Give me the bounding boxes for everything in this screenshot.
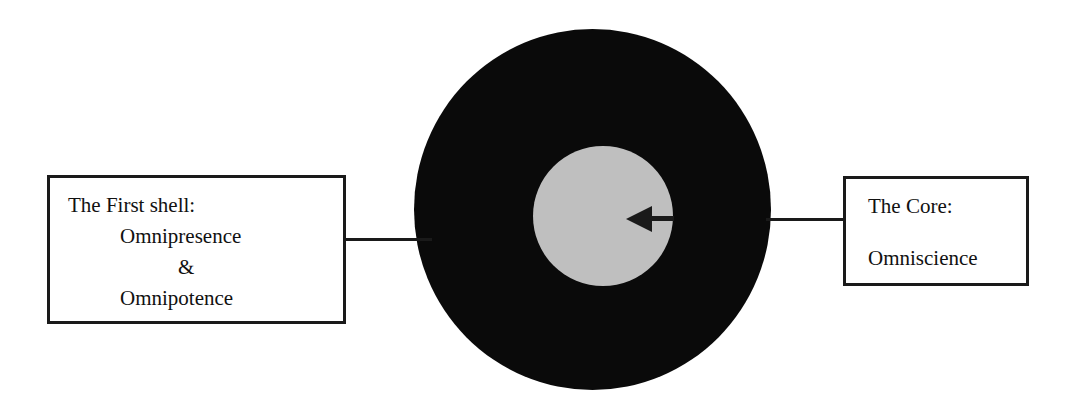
first-shell-heading: The First shell:: [68, 190, 329, 221]
core-label-spacer: [868, 221, 1026, 243]
first-shell-item-omnipotence: Omnipotence: [120, 283, 329, 314]
core-label-box: The Core: Omniscience: [843, 176, 1029, 286]
core-pointer-arrow-icon: [626, 206, 674, 232]
core-item-omniscience: Omniscience: [868, 243, 1026, 273]
first-shell-connector-line: [344, 238, 432, 241]
first-shell-conjunction: &: [178, 252, 329, 283]
diagram-canvas: The First shell: Omnipresence & Omnipote…: [0, 0, 1074, 409]
core-heading: The Core:: [868, 191, 1026, 221]
first-shell-label-box: The First shell: Omnipresence & Omnipote…: [47, 175, 346, 324]
core-connector-line: [766, 218, 844, 221]
first-shell-item-omnipresence: Omnipresence: [120, 221, 329, 252]
